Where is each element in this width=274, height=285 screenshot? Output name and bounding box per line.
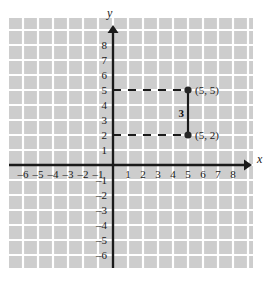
- x-tick-label: –4: [47, 168, 60, 180]
- x-tick-label: –6: [17, 168, 30, 180]
- y-tick-label: –3: [95, 204, 108, 216]
- segment-length: 3: [179, 107, 185, 119]
- x-tick-label: 1: [125, 168, 131, 180]
- x-tick-label: –5: [32, 168, 45, 180]
- upper-point: [184, 86, 191, 93]
- x-tick-label: 8: [230, 168, 236, 180]
- y-tick-label: –2: [95, 189, 107, 201]
- plot-annotations: 3: [179, 107, 185, 119]
- lower-point-label: (5, 2): [195, 129, 219, 142]
- y-tick-label: 8: [102, 39, 108, 51]
- coordinate-plane-figure: x y –6–5–4–3–2–112345678 –6–5–4–3–2–1123…: [0, 0, 274, 285]
- x-tick-label: 7: [215, 168, 221, 180]
- y-tick-label: 1: [102, 144, 108, 156]
- y-tick-label: –1: [95, 174, 107, 186]
- y-tick-label: –4: [95, 219, 108, 231]
- x-tick-label: 4: [170, 168, 176, 180]
- y-axis-label: y: [106, 6, 113, 20]
- y-tick-label: 5: [102, 84, 108, 96]
- y-tick-label: 4: [102, 99, 108, 111]
- grid-background: [9, 18, 253, 268]
- x-tick-label: 2: [140, 168, 146, 180]
- y-tick-label: –5: [95, 234, 108, 246]
- x-tick-label: 5: [185, 168, 191, 180]
- upper-point-label: (5, 5): [195, 84, 219, 97]
- x-tick-label: 6: [200, 168, 206, 180]
- y-tick-label: 3: [102, 114, 108, 126]
- x-tick-label: –2: [77, 168, 89, 180]
- x-axis-label: x: [256, 152, 263, 166]
- x-tick-label: 3: [155, 168, 161, 180]
- x-axis-tick-labels: –6–5–4–3–2–112345678: [17, 168, 237, 180]
- y-tick-label: –6: [95, 249, 108, 261]
- y-tick-label: 6: [102, 69, 108, 81]
- coordinate-plane-svg: x y –6–5–4–3–2–112345678 –6–5–4–3–2–1123…: [0, 0, 274, 285]
- y-tick-label: 7: [102, 54, 108, 66]
- lower-point: [184, 131, 191, 138]
- x-tick-label: –3: [62, 168, 75, 180]
- y-tick-label: 2: [102, 129, 108, 141]
